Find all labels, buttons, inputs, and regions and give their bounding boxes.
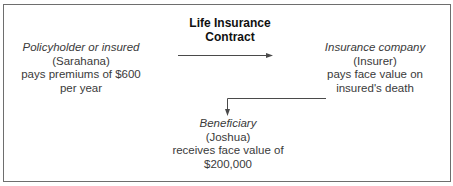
- beneficiary-role: Beneficiary: [160, 117, 296, 131]
- title-line-1: Life Insurance: [180, 16, 280, 30]
- beneficiary-name: (Joshua): [160, 131, 296, 145]
- insurer-node: Insurance company (Insurer) pays face va…: [300, 41, 450, 95]
- insurer-name: (Insurer): [300, 55, 450, 69]
- diagram-title: Life Insurance Contract: [180, 16, 280, 44]
- beneficiary-action-2: $200,000: [160, 158, 296, 172]
- insurer-action-2: insured's death: [300, 82, 450, 96]
- policyholder-role: Policyholder or insured: [8, 41, 154, 55]
- policyholder-name: (Sarahana): [8, 55, 154, 69]
- policyholder-action-1: pays premiums of $600: [8, 68, 154, 82]
- insurer-action-1: pays face value on: [300, 68, 450, 82]
- title-line-2: Contract: [180, 30, 280, 44]
- policyholder-action-2: per year: [8, 82, 154, 96]
- beneficiary-action-1: receives face value of: [160, 144, 296, 158]
- policyholder-node: Policyholder or insured (Sarahana) pays …: [8, 41, 154, 95]
- beneficiary-node: Beneficiary (Joshua) receives face value…: [160, 117, 296, 171]
- insurer-role: Insurance company: [300, 41, 450, 55]
